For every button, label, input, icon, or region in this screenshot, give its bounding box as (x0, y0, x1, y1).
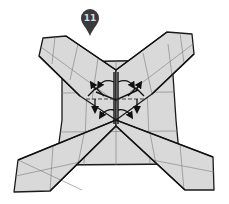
step-number: 11 (84, 13, 97, 23)
step-marker: 11 (81, 9, 99, 36)
folding-diagram: 11 (0, 0, 229, 204)
